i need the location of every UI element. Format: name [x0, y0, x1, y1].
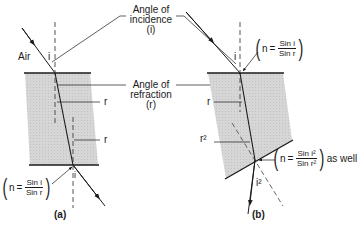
- emergent-arrow-b: [250, 160, 255, 203]
- formula-top-b-num: Sin i: [278, 39, 296, 49]
- refraction-symbol-1-a: r: [104, 97, 107, 107]
- caption-a: (a): [54, 210, 66, 220]
- caption-b: (b): [252, 210, 265, 220]
- formula-top-b-den: Sin r: [279, 49, 295, 58]
- refraction-callout: Angle of refraction (r): [126, 80, 176, 110]
- formula-a-eq: =: [17, 182, 23, 193]
- formula-bottom-b: ( n = Sin i² Sin r² ) as well: [272, 146, 357, 170]
- incidence-leader-left: [52, 16, 126, 62]
- refraction-symbol-2-b: r²: [200, 134, 207, 144]
- formula-bottom-b-suffix: as well: [327, 153, 358, 164]
- refraction-symbol-2-a: r: [104, 135, 107, 145]
- incidence-symbol-a: i: [48, 52, 50, 62]
- incident-arrow-a: [22, 28, 33, 43]
- incidence-symbol-b: i: [234, 52, 236, 62]
- formula-a-den: Sin r: [26, 188, 42, 197]
- glass-block-a: [25, 73, 98, 165]
- incidence-leader-right: [176, 16, 236, 64]
- formula-bottom-b-eq: =: [288, 153, 294, 164]
- exit-symbol-a: i: [74, 170, 76, 180]
- incidence-line3: (i): [126, 25, 176, 35]
- incidence-callout: Angle of incidence (i): [126, 5, 176, 35]
- emergent-arrow-a: [73, 165, 98, 197]
- formula-a-lhs: n: [9, 182, 15, 193]
- formula-bottom-b-num: Sin i²: [296, 149, 316, 159]
- refraction-line3: (r): [126, 100, 176, 110]
- formula-a: ( n = Sin i Sin r ): [1, 175, 52, 199]
- formula-top-b-lhs: n: [262, 43, 268, 54]
- refraction-diagram: [0, 0, 364, 234]
- air-label: Air: [18, 52, 30, 62]
- formula-top-b-eq: =: [270, 43, 276, 54]
- exit-symbol-b: i²: [256, 178, 262, 188]
- formula-a-num: Sin i: [25, 178, 43, 188]
- formula-top-b: ( n = Sin i Sin r ): [254, 36, 305, 60]
- formula-bottom-b-lhs: n: [280, 153, 286, 164]
- refraction-symbol-b: r: [207, 97, 210, 107]
- formula-pointer-a: [52, 167, 72, 184]
- formula-bottom-b-den: Sin r²: [297, 159, 316, 168]
- incident-arrow-b: [186, 12, 212, 41]
